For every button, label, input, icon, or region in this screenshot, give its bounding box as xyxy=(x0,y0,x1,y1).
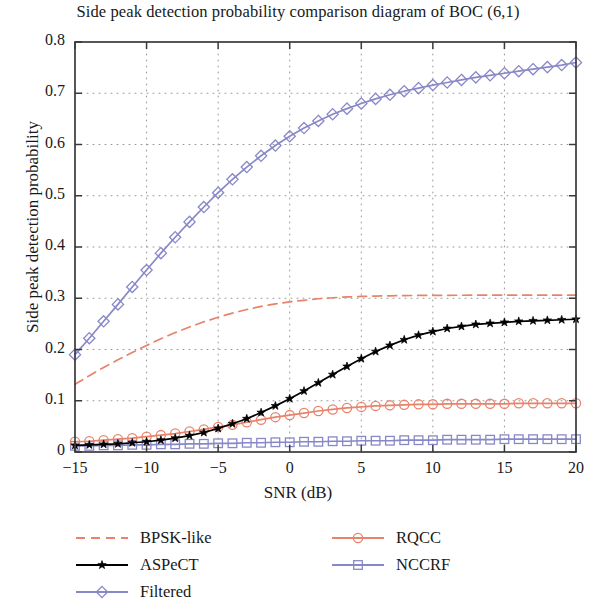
series-line xyxy=(75,63,576,355)
legend-column-left: BPSK-likeASPeCTFiltered xyxy=(74,524,212,605)
legend-swatch xyxy=(330,554,386,576)
data-marker-star xyxy=(472,320,480,328)
chart-figure: Side peak detection probability comparis… xyxy=(0,0,596,609)
data-marker-star xyxy=(486,319,494,327)
x-tick-label: 5 xyxy=(331,459,391,477)
legend-label: NCCRF xyxy=(386,555,450,575)
star-marker-icon xyxy=(98,560,106,568)
star-marker-icon xyxy=(429,327,437,335)
star-marker-icon xyxy=(486,319,494,327)
data-marker-star xyxy=(515,317,523,325)
y-tick-label: 0.6 xyxy=(23,134,65,152)
legend-item-bpsk-like[interactable]: BPSK-like xyxy=(74,524,212,551)
series-line xyxy=(75,295,576,384)
grid-lines xyxy=(75,42,576,452)
star-marker-icon xyxy=(457,322,465,330)
x-tick-label: −10 xyxy=(117,459,177,477)
star-marker-icon xyxy=(529,316,537,324)
x-tick-label: 15 xyxy=(474,459,534,477)
x-axis-label: SNR (dB) xyxy=(0,483,596,503)
y-tick-label: 0.5 xyxy=(23,185,65,203)
y-tick-label: 0 xyxy=(23,441,65,459)
series-bpsk-like xyxy=(75,295,576,384)
star-marker-icon xyxy=(558,315,566,323)
data-marker-star xyxy=(457,322,465,330)
series-line xyxy=(75,319,576,445)
star-marker-icon xyxy=(157,436,165,444)
data-marker-star xyxy=(429,327,437,335)
star-marker-icon xyxy=(472,320,480,328)
y-axis-label: Side peak detection probability xyxy=(23,77,43,377)
legend-label: Filtered xyxy=(130,582,191,602)
y-tick-label: 0.7 xyxy=(23,82,65,100)
star-marker-icon xyxy=(386,341,394,349)
legend-label: RQCC xyxy=(386,528,441,548)
data-marker-star xyxy=(98,560,106,568)
data-marker-star xyxy=(386,341,394,349)
legend-column-right: RQCCNCCRF xyxy=(330,524,450,578)
legend-item-nccrf[interactable]: NCCRF xyxy=(330,551,450,578)
y-tick-label: 0.1 xyxy=(23,390,65,408)
star-marker-icon xyxy=(543,316,551,324)
y-tick-label: 0.3 xyxy=(23,287,65,305)
x-tick-label: −15 xyxy=(45,459,105,477)
x-tick-label: 0 xyxy=(260,459,320,477)
x-tick-label: 10 xyxy=(403,459,463,477)
legend-swatch xyxy=(74,554,130,576)
legend-swatch xyxy=(74,581,130,603)
y-tick-label: 0.4 xyxy=(23,236,65,254)
legend-swatch xyxy=(74,527,130,549)
legend-item-rqcc[interactable]: RQCC xyxy=(330,524,450,551)
legend-swatch xyxy=(330,527,386,549)
y-tick-label: 0.8 xyxy=(23,31,65,49)
data-marker-star xyxy=(529,316,537,324)
legend-item-filtered[interactable]: Filtered xyxy=(74,578,212,605)
star-marker-icon xyxy=(515,317,523,325)
legend-label: BPSK-like xyxy=(130,528,212,548)
series-line xyxy=(75,403,576,441)
star-marker-icon xyxy=(400,335,408,343)
legend-item-aspect[interactable]: ASPeCT xyxy=(74,551,212,578)
star-marker-icon xyxy=(443,324,451,332)
data-marker-star xyxy=(157,436,165,444)
data-marker-star xyxy=(400,335,408,343)
x-tick-label: −5 xyxy=(188,459,248,477)
data-marker-star xyxy=(443,324,451,332)
plot-canvas xyxy=(0,0,596,609)
y-tick-label: 0.2 xyxy=(23,339,65,357)
star-marker-icon xyxy=(271,401,279,409)
chart-legend: BPSK-likeASPeCTFiltered RQCCNCCRF xyxy=(0,524,596,609)
star-marker-icon xyxy=(414,331,422,339)
series-aspect xyxy=(71,315,580,449)
x-tick-label: 20 xyxy=(546,459,596,477)
data-marker-star xyxy=(414,331,422,339)
legend-label: ASPeCT xyxy=(130,555,199,575)
data-marker-star xyxy=(558,315,566,323)
data-marker-star xyxy=(271,401,279,409)
data-marker-star xyxy=(543,316,551,324)
